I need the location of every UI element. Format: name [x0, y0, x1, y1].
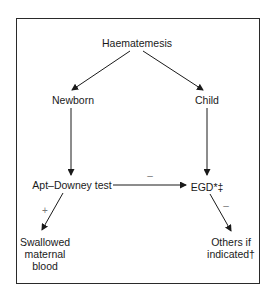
node-swallowed-maternal-blood: Swallowed maternal blood — [20, 236, 70, 272]
edge-sign-positive-apt: + — [42, 205, 48, 216]
node-haematemesis: Haematemesis — [102, 37, 172, 49]
node-others-if-indicated: Others if indicated† — [207, 236, 255, 260]
node-apt-downey-test: Apt–Downey test — [32, 179, 111, 191]
edge-sign-negative-egd: – — [223, 200, 229, 211]
node-newborn: Newborn — [52, 94, 94, 106]
edge-sign-negative-apt: – — [147, 170, 153, 181]
node-egd: EGD*‡ — [191, 181, 224, 193]
node-child: Child — [195, 94, 219, 106]
